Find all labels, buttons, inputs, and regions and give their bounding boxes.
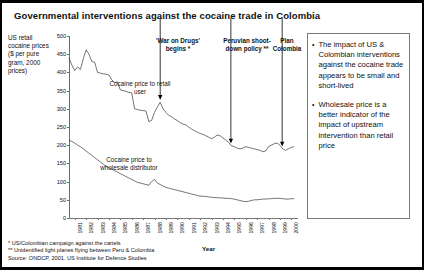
x-minor-tick xyxy=(86,218,87,219)
footnotes: * US/Colombian campaign against the cart… xyxy=(8,240,154,262)
list-item: • Wholesale price is a better indicator … xyxy=(312,100,404,151)
x-minor-tick xyxy=(288,218,289,219)
y-tick-label: 150 xyxy=(57,160,66,166)
x-minor-tick xyxy=(266,218,267,219)
x-minor-tick xyxy=(75,218,76,219)
x-minor-tick xyxy=(237,218,238,219)
x-minor-tick xyxy=(140,218,141,219)
x-minor-tick xyxy=(226,218,227,219)
x-minor-tick xyxy=(209,218,210,219)
x-minor-tick xyxy=(246,218,247,219)
x-minor-tick xyxy=(280,218,281,219)
y-tick-label: 200 xyxy=(57,142,66,148)
x-minor-tick xyxy=(83,218,84,219)
x-minor-tick xyxy=(180,218,181,219)
x-tick-label: 1989 xyxy=(168,222,174,234)
annotation-arrowhead-1 xyxy=(229,139,233,144)
y-tick-label: 300 xyxy=(57,106,66,112)
x-tick-label: 1983 xyxy=(100,222,106,234)
x-minor-tick xyxy=(271,218,272,219)
x-minor-tick xyxy=(123,218,124,219)
x-minor-tick xyxy=(240,218,241,219)
bullet-icon: • xyxy=(312,40,314,91)
x-minor-tick xyxy=(72,218,73,219)
x-tick-label: 1981 xyxy=(77,222,83,234)
x-minor-tick xyxy=(294,218,295,219)
x-minor-tick xyxy=(257,218,258,219)
x-minor-tick xyxy=(78,218,79,219)
x-minor-tick xyxy=(109,218,110,219)
slide-root: Governmental interventions against the c… xyxy=(0,0,424,279)
x-tick-label: 1991 xyxy=(191,222,197,234)
x-minor-tick xyxy=(249,218,250,219)
chart-container: US retail cocaine prices ($ per pure gra… xyxy=(6,30,298,235)
x-minor-tick xyxy=(254,218,255,219)
series-label-retail: Cocaine price to retail user xyxy=(109,80,171,96)
x-tick-label: 1984 xyxy=(111,222,117,234)
x-minor-tick xyxy=(92,218,93,219)
x-minor-tick xyxy=(89,218,90,219)
x-minor-tick xyxy=(297,218,298,219)
y-tick-label: 450 xyxy=(57,51,66,57)
y-tick-label: 350 xyxy=(57,88,66,94)
y-tick-label: 100 xyxy=(57,179,66,185)
x-minor-tick xyxy=(143,218,144,219)
x-minor-tick xyxy=(117,218,118,219)
x-minor-tick xyxy=(214,218,215,219)
x-minor-tick xyxy=(146,218,147,219)
x-tick-label: 1990 xyxy=(179,222,185,234)
x-minor-tick xyxy=(243,218,244,219)
x-minor-tick xyxy=(157,218,158,219)
x-minor-tick xyxy=(112,218,113,219)
annotation-arrows xyxy=(69,36,297,218)
bullet-text-2: Wholesale price is a better indicator of… xyxy=(318,100,404,151)
x-minor-tick xyxy=(251,218,252,219)
x-minor-tick xyxy=(155,218,156,219)
x-minor-tick xyxy=(189,218,190,219)
frame-top-border xyxy=(0,0,424,3)
x-minor-tick xyxy=(231,218,232,219)
list-item: • The impact of US & Colombian intervent… xyxy=(312,40,404,91)
x-minor-tick xyxy=(274,218,275,219)
key-points-panel: • The impact of US & Colombian intervent… xyxy=(307,33,410,219)
x-minor-tick xyxy=(149,218,150,219)
x-tick-label: 1992 xyxy=(202,222,208,234)
x-axis-label: Year xyxy=(202,245,215,252)
source-note: Source: ONDCP, 2001. US Institute for De… xyxy=(8,255,154,262)
x-minor-tick xyxy=(166,218,167,219)
x-minor-tick xyxy=(283,218,284,219)
x-minor-tick xyxy=(120,218,121,219)
x-minor-tick xyxy=(126,218,127,219)
x-minor-tick xyxy=(129,218,130,219)
x-tick-label: 1987 xyxy=(145,222,151,234)
x-minor-tick xyxy=(169,218,170,219)
y-tick-label: 0 xyxy=(63,215,66,221)
x-minor-tick xyxy=(212,218,213,219)
x-minor-tick xyxy=(260,218,261,219)
x-minor-tick xyxy=(135,218,136,219)
x-minor-tick xyxy=(277,218,278,219)
footnote-1: * US/Colombian campaign against the cart… xyxy=(8,240,154,247)
plot-area: 050100150200250300350400450500 198119821… xyxy=(69,36,297,218)
x-minor-tick xyxy=(160,218,161,219)
x-minor-tick xyxy=(174,218,175,219)
x-tick-label: 1998 xyxy=(271,222,277,234)
x-minor-tick xyxy=(192,218,193,219)
x-minor-tick xyxy=(103,218,104,219)
x-tick-label: 2000 xyxy=(293,222,299,234)
x-minor-tick xyxy=(234,218,235,219)
x-minor-tick xyxy=(98,218,99,219)
x-minor-tick xyxy=(69,218,70,219)
x-minor-tick xyxy=(132,218,133,219)
x-tick-label: 1994 xyxy=(225,222,231,234)
x-minor-tick xyxy=(286,218,287,219)
bullet-text-1: The impact of US & Colombian interventio… xyxy=(318,40,404,91)
x-minor-tick xyxy=(186,218,187,219)
x-tick-label: 1982 xyxy=(88,222,94,234)
x-minor-tick xyxy=(197,218,198,219)
x-tick-label: 1986 xyxy=(134,222,140,234)
annotation-plan-colombia: Plan Colombia xyxy=(268,37,306,53)
x-minor-tick xyxy=(200,218,201,219)
x-tick-label: 1996 xyxy=(248,222,254,234)
frame-bottom-border xyxy=(0,267,424,270)
